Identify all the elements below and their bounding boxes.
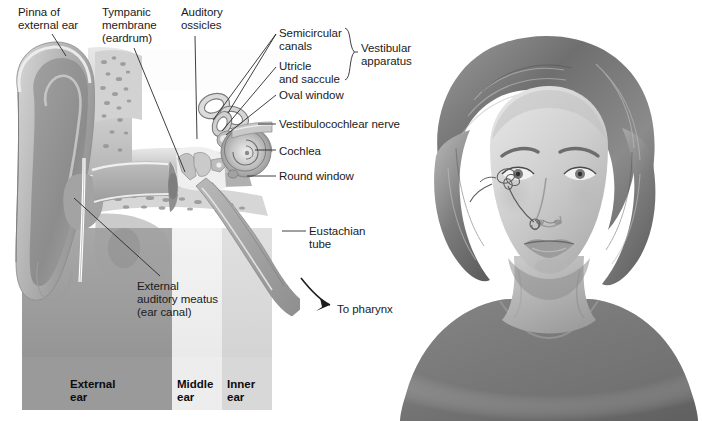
label-pinna-of-external-ear: Pinna of external ear <box>18 6 78 32</box>
label-round-window: Round window <box>279 170 354 183</box>
label-vestibulocochlear-nerve: Vestibulocochlear nerve <box>279 118 400 131</box>
label-utricle-and-saccule: Utricle and saccule <box>279 60 340 86</box>
vestibular-apparatus-brace <box>345 28 354 80</box>
to-pharynx-arrow <box>301 278 330 305</box>
label-auditory-ossicles: Auditory ossicles <box>181 6 223 32</box>
temporal-bone <box>88 47 300 228</box>
face <box>490 86 608 274</box>
label-eustachian-tube: Eustachian tube <box>309 225 365 251</box>
to-pharynx-arrowhead <box>316 298 330 311</box>
label-to-pharynx: To pharynx <box>337 303 393 316</box>
band-label-inner: Inner ear <box>227 378 255 405</box>
round-window <box>228 170 238 178</box>
label-cochlea: Cochlea <box>279 145 321 158</box>
label-oval-window: Oval window <box>279 89 344 102</box>
ear-region-band: External ear Middle ear Inner ear <box>22 357 272 410</box>
label-tympanic-membrane: Tympanic membrane (eardrum) <box>102 6 157 46</box>
figure-canvas: External ear Middle ear Inner ear Pinna … <box>0 0 702 421</box>
band-label-middle: Middle ear <box>177 378 213 405</box>
ear-cross-section-illustration <box>0 0 300 415</box>
label-external-auditory-meatus: External auditory meatus (ear canal) <box>137 280 218 320</box>
woman-head-portrait <box>396 8 702 421</box>
label-semicircular-canals: Semicircular canals <box>279 27 342 53</box>
band-label-external: External ear <box>70 378 115 405</box>
